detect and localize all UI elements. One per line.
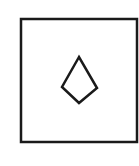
diagram-canvas	[0, 0, 139, 166]
kite-shape	[62, 57, 97, 103]
square-frame	[21, 19, 137, 142]
